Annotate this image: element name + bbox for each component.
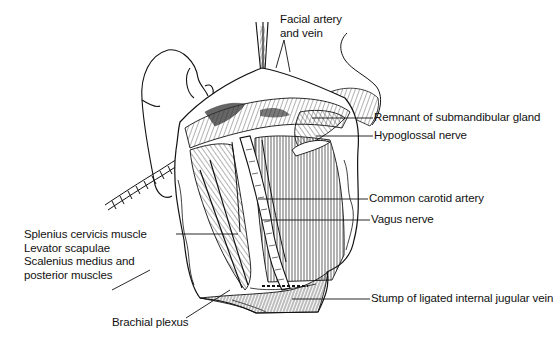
label-brachial-plexus: Brachial plexus [112, 316, 189, 330]
label-hypoglossal-nerve: Hypoglossal nerve [374, 129, 467, 143]
label-vagus-nerve: Vagus nerve [371, 213, 434, 227]
label-jugular-vein-stump: Stump of ligated internal jugular vein [371, 292, 553, 306]
label-muscles-group: Splenius cervicis muscle Levator scapula… [24, 228, 147, 282]
label-submandibular-gland: Remnant of submandibular gland [374, 111, 540, 125]
label-facial-artery: Facial artery and vein [280, 13, 342, 40]
leader-facial [276, 40, 290, 72]
label-common-carotid-artery: Common carotid artery [369, 192, 484, 206]
